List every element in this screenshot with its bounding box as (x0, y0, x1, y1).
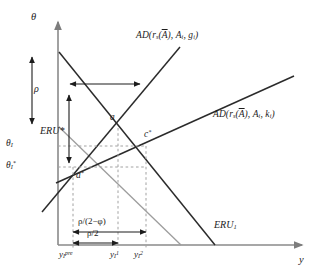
economics-diagram-figure: θ y AD(rs(A), Ai, gi) AD(rs(A), Ai, ki) … (0, 0, 321, 280)
point-label-a-star: a* (76, 170, 84, 180)
annotation-label-rho: ρ (34, 84, 39, 94)
curve-eru-star (58, 126, 181, 245)
x-tick-label-y-2: yI2 (134, 250, 143, 260)
c-star-sup: * (148, 129, 151, 135)
ad-k-suffix: ) (271, 109, 274, 119)
annotation-label-rho-over-2: ρ/2 (87, 229, 99, 238)
eru-1-text: ERU (214, 219, 233, 230)
curve-label-ad-k: AD(rs(A), Ai, ki) (213, 110, 275, 120)
y-tick-label-theta-I-star: θI* (6, 160, 16, 170)
guide-lines-group (58, 128, 146, 248)
y-axis-label: θ (31, 12, 36, 23)
y-2-sup: 2 (140, 250, 143, 256)
theta-I-sub: I (11, 142, 13, 148)
curve-label-ad-g: AD(rs(A), Ai, gi) (136, 31, 198, 41)
ad-g-after: ), A (168, 30, 182, 40)
ad-k-comma-k: , k (260, 109, 269, 119)
theta-I-star-sup: * (13, 160, 16, 166)
point-label-c-star: c* (144, 129, 151, 139)
curve-label-eru-star: ERU* (40, 126, 64, 136)
x-tick-label-y-pre: yIpre (59, 250, 73, 260)
y-pre-sup: pre (65, 250, 73, 256)
y-tick-label-theta-I: θI (6, 139, 13, 149)
y-1-sup: 1 (116, 250, 119, 256)
curve-label-eru-1: ERU1 (214, 220, 237, 231)
x-tick-label-y-1: yI1 (110, 250, 119, 260)
ad-k-after: ), A (245, 109, 259, 119)
ad-g-suffix: ) (195, 30, 198, 40)
ad-g-prefix: AD(r (136, 30, 156, 40)
point-label-a: a (110, 113, 115, 123)
ad-g-comma-g: , g (183, 30, 193, 40)
diagram-canvas (0, 0, 321, 280)
x-axis-label: y (299, 255, 304, 266)
a-star-sup: * (81, 170, 84, 176)
annotation-label-rho-over-2-minus-phi: ρ/(2−φ) (78, 217, 106, 226)
ad-k-prefix: AD(r (213, 109, 233, 119)
axis-group (58, 22, 302, 245)
eru-1-sub: 1 (233, 223, 236, 230)
